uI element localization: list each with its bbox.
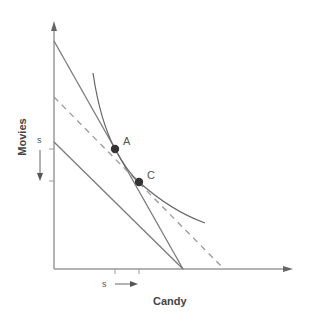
y-axis-label: Movies	[17, 118, 28, 155]
right-arrow-icon	[130, 281, 138, 287]
point-A-label: A	[123, 136, 130, 147]
axes	[51, 21, 293, 272]
y-axis-arrow-icon	[51, 21, 57, 31]
down-arrow-icon	[37, 173, 43, 181]
x-shift-arrow	[115, 281, 138, 287]
point-C	[135, 178, 143, 186]
consumer-choice-diagram	[0, 0, 309, 321]
y-shift-label: s	[37, 136, 42, 145]
new-budget-line	[54, 142, 183, 269]
indifference-curve	[93, 73, 205, 223]
point-A	[111, 145, 119, 153]
x-axis-arrow-icon	[283, 266, 293, 272]
x-shift-label: s	[102, 280, 107, 289]
y-shift-arrow	[37, 150, 43, 181]
point-C-label: C	[147, 170, 155, 181]
x-axis-label: Candy	[153, 296, 187, 307]
